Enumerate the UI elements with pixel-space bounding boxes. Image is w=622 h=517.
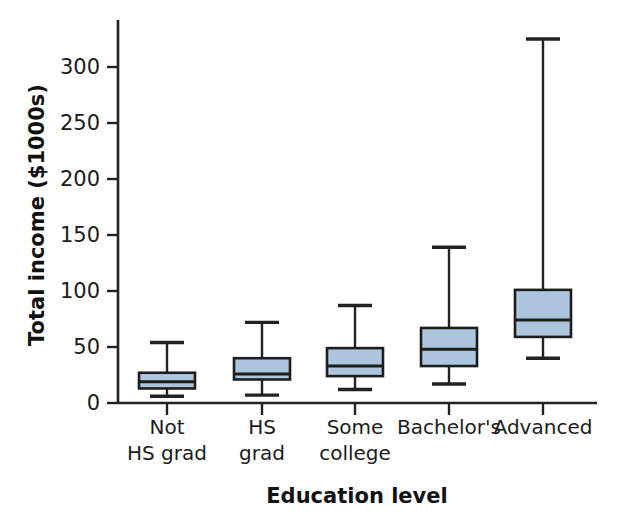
x-axis-title: Education level [266, 484, 447, 508]
y-tick-label: 0 [87, 391, 100, 415]
box-plot-item [515, 39, 571, 358]
x-category-label: grad [239, 441, 285, 465]
box-iqr-rect [234, 358, 290, 379]
box-plot-item [139, 343, 195, 397]
x-category-label: college [319, 441, 391, 465]
x-category-label: Not [149, 415, 184, 439]
y-tick-label: 250 [60, 111, 100, 135]
y-tick-label: 100 [60, 279, 100, 303]
box-group [139, 39, 571, 396]
boxplot-figure: 050100150200250300 NotHS gradHSgradSomec… [0, 0, 622, 517]
y-tick-label: 300 [60, 55, 100, 79]
box-iqr-rect [515, 290, 571, 337]
box-iqr-rect [327, 348, 383, 376]
box-iqr-rect [421, 328, 477, 366]
box-plot-item [234, 322, 290, 395]
x-category-label: Some [327, 415, 384, 439]
x-category-label: Bachelor's [397, 415, 501, 439]
category-label-group: NotHS gradHSgradSomecollegeBachelor'sAdv… [127, 415, 592, 465]
x-category-label: Advanced [494, 415, 593, 439]
x-tick-group [167, 403, 543, 415]
y-tick-label: 50 [73, 335, 100, 359]
box-plot-item [421, 247, 477, 384]
y-tick-label: 200 [60, 167, 100, 191]
y-tick-label: 150 [60, 223, 100, 247]
y-tick-group: 050100150200250300 [60, 55, 118, 415]
x-category-label: HS [248, 415, 276, 439]
boxplot-svg: 050100150200250300 NotHS gradHSgradSomec… [0, 0, 622, 517]
x-category-label: HS grad [127, 441, 207, 465]
y-axis-title: Total income ($1000s) [25, 84, 49, 346]
box-plot-item [327, 306, 383, 390]
